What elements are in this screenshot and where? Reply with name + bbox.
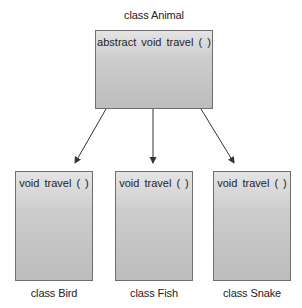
bird-travel-method: void travel ( )	[16, 177, 92, 189]
snake-class-box: void travel ( )	[213, 171, 291, 281]
fish-travel-method: void travel ( )	[116, 177, 192, 189]
snake-travel-method: void travel ( )	[214, 177, 290, 189]
bird-class-box: void travel ( )	[15, 171, 93, 281]
fish-class-box: void travel ( )	[115, 171, 193, 281]
arrow-to-snake	[201, 109, 234, 163]
bird-class-label: class Bird	[15, 287, 93, 299]
snake-class-label: class Snake	[213, 287, 291, 299]
arrow-to-bird	[75, 109, 106, 163]
fish-class-label: class Fish	[115, 287, 193, 299]
